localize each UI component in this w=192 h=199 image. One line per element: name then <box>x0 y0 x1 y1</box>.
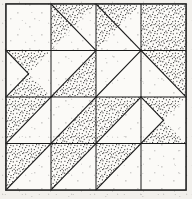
patch-r0c3-stipple-square-corner <box>141 4 186 51</box>
patch-r3c3-plain-white-square-corner <box>141 144 186 191</box>
quilt-block-svg <box>0 0 192 199</box>
quilt-block-figure <box>0 0 192 199</box>
patch-r0c0-plain-white-square <box>6 4 51 51</box>
